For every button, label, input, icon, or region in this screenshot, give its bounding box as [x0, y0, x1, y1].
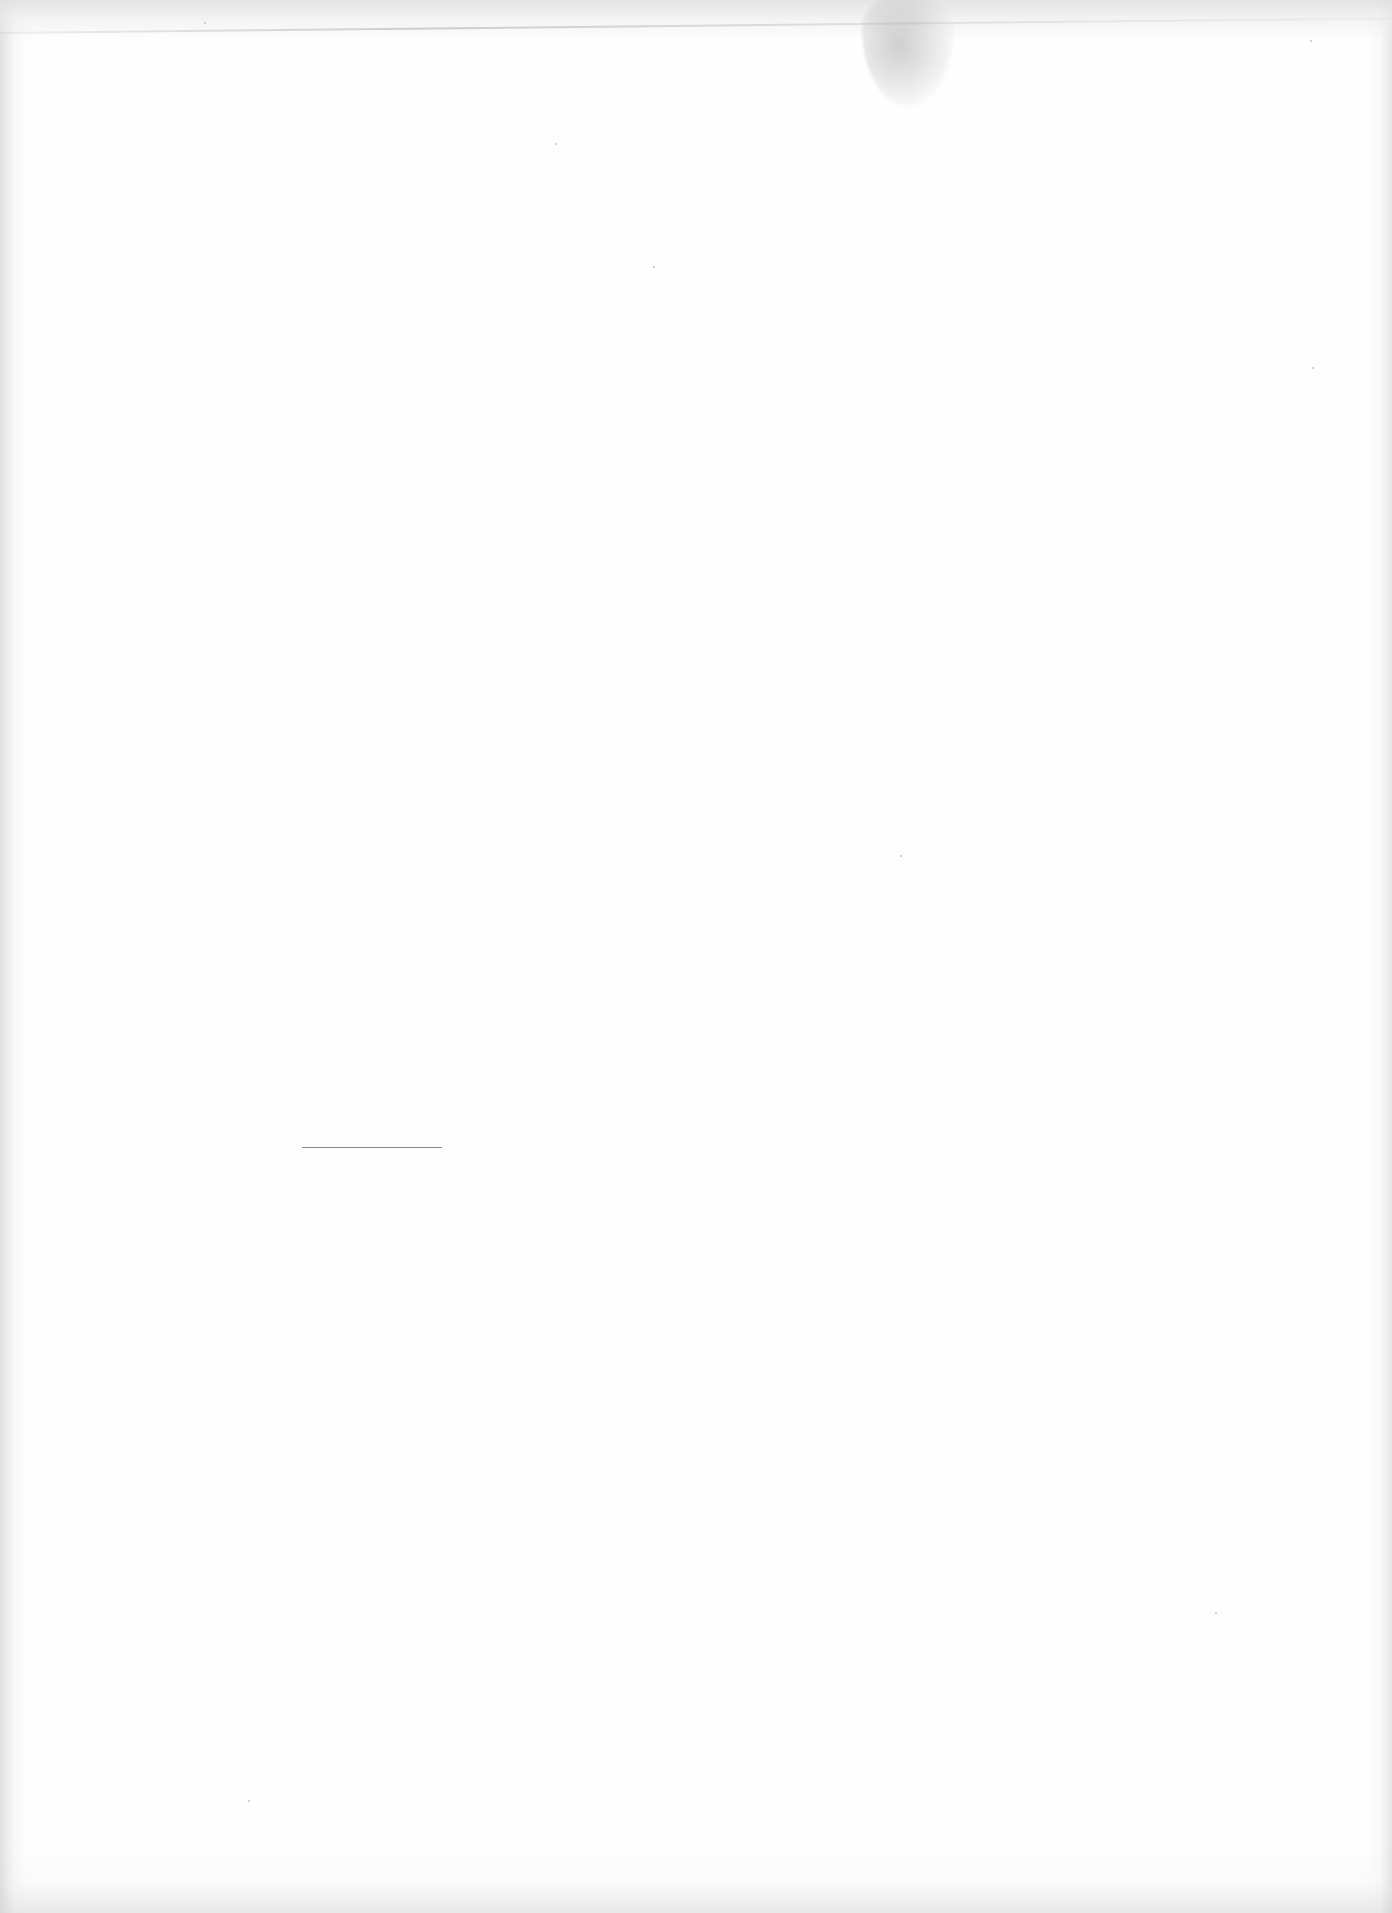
scan-speck [1312, 367, 1314, 369]
smudge-mark [862, 0, 954, 106]
scan-speck [1215, 1612, 1217, 1614]
scan-speck [248, 1800, 250, 1802]
footnote-separator-rule [302, 1147, 442, 1148]
scan-speck [555, 143, 557, 145]
scan-speck [653, 266, 655, 268]
scan-speck [204, 22, 206, 24]
scan-speck [1310, 40, 1312, 42]
scan-speck [900, 855, 902, 857]
scanned-page [0, 0, 1392, 1913]
